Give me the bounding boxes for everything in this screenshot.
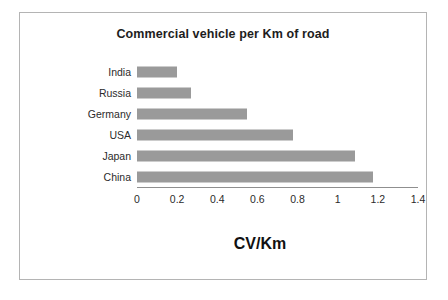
bar-china (137, 171, 373, 182)
chart-frame: Commercial vehicle per Km of road Countr… (19, 12, 427, 280)
bar-row: India (137, 61, 417, 82)
bar-category-label: India (108, 66, 131, 78)
bar-category-label: Japan (102, 150, 131, 162)
plot-area: IndiaRussiaGermanyUSAJapanChina (137, 61, 417, 187)
bar-category-label: China (104, 171, 131, 183)
bar-row: Germany (137, 103, 417, 124)
bar-row: Japan (137, 145, 417, 166)
bar-india (137, 66, 177, 77)
x-axis-tick-labels: 00.20.40.60.811.21.4 (137, 193, 418, 211)
bar-usa (137, 129, 293, 140)
bar-category-label: Germany (88, 108, 131, 120)
bar-japan (137, 150, 355, 161)
x-tick-label: 0.4 (210, 193, 225, 205)
bar-track (137, 82, 417, 103)
x-tick-label: 1 (335, 193, 341, 205)
bar-row: Russia (137, 82, 417, 103)
chart-title: Commercial vehicle per Km of road (20, 27, 426, 41)
x-tick-label: 0 (134, 193, 140, 205)
bar-germany (137, 108, 247, 119)
bar-track (137, 166, 417, 187)
x-tick-label: 0.8 (290, 193, 305, 205)
bar-category-label: USA (109, 129, 131, 141)
x-tick-label: 0.6 (250, 193, 265, 205)
x-axis-title: CV/Km (120, 235, 400, 253)
bar-track (137, 145, 417, 166)
bar-track (137, 103, 417, 124)
x-tick-label: 1.4 (411, 193, 426, 205)
x-tick-label: 1.2 (371, 193, 386, 205)
x-tick-label: 0.2 (170, 193, 185, 205)
bar-track (137, 61, 417, 82)
bar-track (137, 124, 417, 145)
bar-category-label: Russia (99, 87, 131, 99)
bar-russia (137, 87, 191, 98)
bar-row: USA (137, 124, 417, 145)
bar-row: China (137, 166, 417, 187)
x-axis-line (137, 187, 418, 188)
